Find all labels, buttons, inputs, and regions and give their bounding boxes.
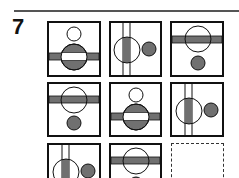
circle-band-figure-icon [49,23,99,75]
cell-r2c3 [170,82,224,137]
cell-r1c2 [109,21,162,77]
circle-vband-figure-icon [49,145,99,178]
answer-placeholder-box[interactable] [171,143,224,178]
circle-hband-figure-icon [172,23,222,75]
cell-r1c3 [170,21,224,77]
circle-vband-figure-icon [111,23,160,75]
circle-band-figure-icon [111,84,160,135]
top-rule [14,10,239,12]
cell-r3c1 [47,143,101,178]
cell-r1c1 [47,21,101,77]
circle-hband-figure-icon [49,84,99,135]
circle-hband-figure-icon [111,145,160,178]
circle-vband-figure-icon [172,84,222,135]
question-number: 7 [12,16,24,38]
cell-r2c2 [109,82,162,137]
cell-r2c1 [47,82,101,137]
cell-r3c2 [109,143,162,178]
